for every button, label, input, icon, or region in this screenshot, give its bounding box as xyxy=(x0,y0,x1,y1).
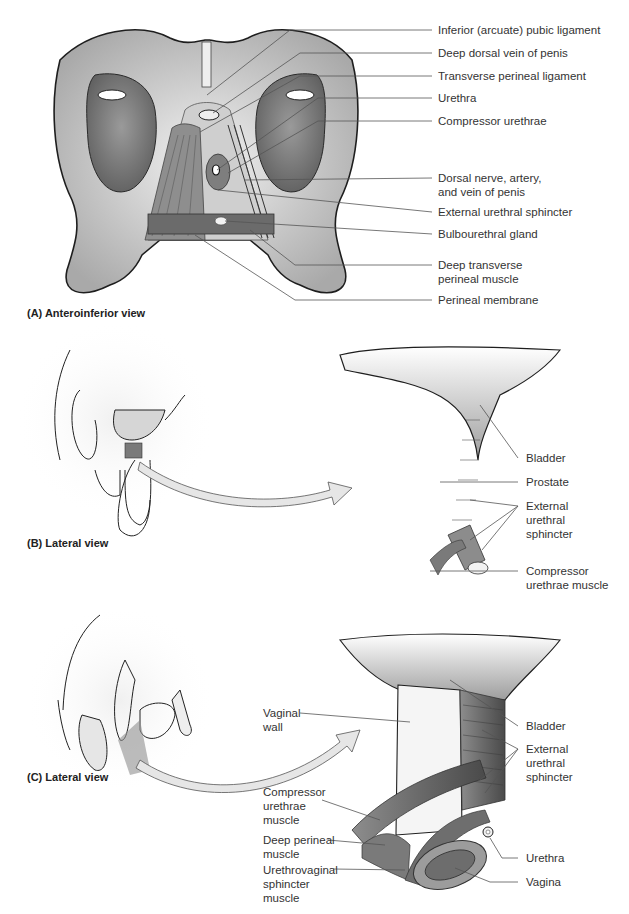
label-external-urethral-sphincter-c: External urethral sphincter xyxy=(526,742,573,784)
label-bulbourethral-gland: Bulbourethral gland xyxy=(438,227,538,241)
label-compressor-urethrae-a: Compressor urethrae xyxy=(438,114,547,128)
label-deep-transverse-perineal-muscle: Deep transverse perineal muscle xyxy=(438,258,522,286)
label-urethrovaginal-sphincter-muscle: Urethrovaginal sphincter muscle xyxy=(263,863,338,905)
label-vagina: Vagina xyxy=(526,875,561,889)
label-bladder-c: Bladder xyxy=(526,719,566,733)
label-urethra-c: Urethra xyxy=(526,851,564,865)
label-urethra-a: Urethra xyxy=(438,91,476,105)
caption-panel-c: (C) Lateral view xyxy=(27,771,108,783)
label-prostate: Prostate xyxy=(526,475,569,489)
label-perineal-membrane: Perineal membrane xyxy=(438,293,538,307)
label-inferior-pubic-ligament: Inferior (arcuate) pubic ligament xyxy=(438,23,600,37)
label-dorsal-nerve-artery-vein: Dorsal nerve, artery, and vein of penis xyxy=(438,171,541,199)
anatomy-figure: Inferior (arcuate) pubic ligament Deep d… xyxy=(0,0,629,914)
label-external-urethral-sphincter-a: External urethral sphincter xyxy=(438,205,572,219)
label-deep-perineal-muscle: Deep perineal muscle xyxy=(263,833,335,861)
label-transverse-perineal-ligament: Transverse perineal ligament xyxy=(438,69,586,83)
label-bladder-b: Bladder xyxy=(526,451,566,465)
panel-a-illustration xyxy=(54,30,432,300)
label-external-urethral-sphincter-b: External urethral sphincter xyxy=(526,499,573,541)
caption-panel-b: (B) Lateral view xyxy=(27,537,108,549)
label-compressor-urethrae-muscle-c: Compressor urethrae muscle xyxy=(263,785,326,827)
label-vaginal-wall: Vaginal wall xyxy=(263,706,301,734)
label-compressor-urethrae-muscle-b: Compressor urethrae muscle xyxy=(526,564,608,592)
label-deep-dorsal-vein: Deep dorsal vein of penis xyxy=(438,46,568,60)
caption-panel-a: (A) Anteroinferior view xyxy=(27,307,145,319)
